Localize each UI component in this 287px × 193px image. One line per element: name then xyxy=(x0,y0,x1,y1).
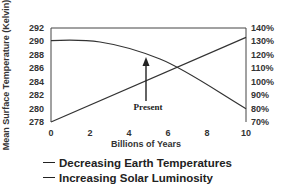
x-tick: 8 xyxy=(204,128,209,138)
legend-label: Increasing Solar Luminosity xyxy=(59,172,213,184)
y2-tick: 90% xyxy=(251,90,269,100)
x-tick: 6 xyxy=(165,128,170,138)
y-tick: 290 xyxy=(29,36,44,46)
legend-line-icon xyxy=(43,177,55,179)
y-tick: 278 xyxy=(29,117,44,127)
y-tick: 282 xyxy=(29,90,44,100)
y2-tick: 140% xyxy=(251,23,274,33)
legend-item-earth-temperature: Decreasing Earth Temperatures xyxy=(43,155,232,170)
x-axis-title: Billions of Years xyxy=(111,139,181,149)
legend-label: Decreasing Earth Temperatures xyxy=(59,157,232,169)
x-tick: 4 xyxy=(126,128,131,138)
y-tick: 286 xyxy=(29,63,44,73)
x-tick: 0 xyxy=(48,128,53,138)
y2-tick: 120% xyxy=(251,50,274,60)
legend-line-icon xyxy=(43,162,55,164)
x-tick: 10 xyxy=(241,128,251,138)
y2-tick: 70% xyxy=(251,117,269,127)
y-tick: 284 xyxy=(29,77,44,87)
arrow-up-icon xyxy=(143,57,150,66)
y2-tick: 80% xyxy=(251,104,269,114)
y2-axis-ticks: 140% 130% 120% 110% 100% 90% 80% 70% xyxy=(251,23,274,127)
x-axis-ticks: 0 2 4 6 8 10 xyxy=(48,128,251,138)
y2-tick: 100% xyxy=(251,77,274,87)
x-tick: 2 xyxy=(87,128,92,138)
legend: Decreasing Earth Temperatures Increasing… xyxy=(43,155,232,185)
y-axis-ticks: 292 290 288 286 284 282 280 278 xyxy=(29,23,44,127)
y-tick: 280 xyxy=(29,104,44,114)
y-axis-title: Mean Surface Temperature (Kelvin) xyxy=(1,0,11,150)
y2-tick: 130% xyxy=(251,36,274,46)
present-label: Present xyxy=(134,102,163,112)
y-tick: 292 xyxy=(29,23,44,33)
y-tick: 288 xyxy=(29,50,44,60)
legend-item-solar-luminosity: Increasing Solar Luminosity xyxy=(43,170,232,185)
y2-tick: 110% xyxy=(251,63,274,73)
